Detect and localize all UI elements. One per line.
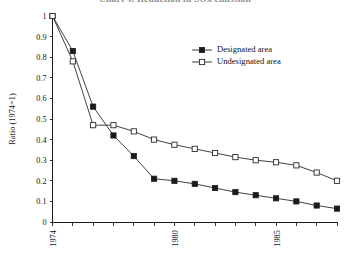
- data-point-marker: [111, 123, 116, 128]
- y-tick-label: 0.9: [36, 33, 46, 42]
- legend-marker-1: [199, 47, 204, 52]
- legend-marker-2: [199, 59, 204, 64]
- data-point-marker: [152, 137, 157, 142]
- data-point-marker: [273, 196, 278, 201]
- y-tick-label: 0.6: [36, 94, 46, 103]
- y-tick-label: 0: [42, 218, 46, 227]
- x-tick-label: 1985: [273, 230, 282, 247]
- y-tick-label: 1: [42, 12, 46, 21]
- data-point-marker: [192, 181, 197, 186]
- data-point-marker: [91, 123, 96, 128]
- data-point-marker: [233, 190, 238, 195]
- data-point-marker: [172, 142, 177, 147]
- y-tick-label: 0.4: [36, 136, 46, 145]
- y-axis-ticks: 00.10.20.30.40.50.60.70.80.91: [36, 12, 52, 227]
- x-tick-label: 1974: [49, 229, 58, 247]
- series-layer: [50, 13, 340, 211]
- x-tick-label: 1980: [171, 230, 180, 247]
- data-point-marker: [314, 203, 319, 208]
- data-point-marker: [131, 129, 136, 134]
- chart-svg: 00.10.20.30.40.50.60.70.80.91 1974198019…: [0, 0, 350, 268]
- y-tick-label: 0.5: [36, 115, 46, 124]
- x-axis-ticks: 197419801985: [49, 222, 337, 247]
- data-point-marker: [253, 193, 258, 198]
- data-point-marker: [50, 13, 55, 18]
- data-point-marker: [70, 48, 75, 53]
- data-point-marker: [314, 170, 319, 175]
- data-point-marker: [131, 153, 136, 158]
- data-point-marker: [172, 178, 177, 183]
- data-point-marker: [294, 163, 299, 168]
- data-point-marker: [212, 185, 217, 190]
- data-point-marker: [273, 160, 278, 165]
- y-tick-label: 0.3: [36, 156, 46, 165]
- y-tick-label: 0.2: [36, 177, 46, 186]
- y-tick-label: 0.1: [36, 197, 46, 206]
- data-point-marker: [192, 146, 197, 151]
- legend-label-2: Undesignated area: [217, 56, 281, 66]
- chart-legend: Designated areaUndesignated area: [192, 44, 281, 66]
- y-tick-label: 0.7: [36, 74, 46, 83]
- data-point-marker: [152, 176, 157, 181]
- y-tick-label: 0.8: [36, 53, 46, 62]
- series-line-2: [53, 16, 338, 181]
- data-point-marker: [91, 104, 96, 109]
- legend-label-1: Designated area: [217, 44, 272, 54]
- data-point-marker: [334, 178, 339, 183]
- chart-plot-area: 00.10.20.30.40.50.60.70.80.91 1974198019…: [0, 0, 350, 268]
- data-point-marker: [334, 206, 339, 211]
- data-point-marker: [294, 199, 299, 204]
- data-point-marker: [70, 59, 75, 64]
- data-point-marker: [111, 133, 116, 138]
- series-line-1: [53, 16, 338, 209]
- chart-page: Chart 4. Reduction in SOx emission 00.10…: [0, 0, 350, 268]
- y-axis-title: Ratio (1974=1): [8, 93, 17, 145]
- data-point-marker: [253, 158, 258, 163]
- data-point-marker: [233, 155, 238, 160]
- data-point-marker: [212, 150, 217, 155]
